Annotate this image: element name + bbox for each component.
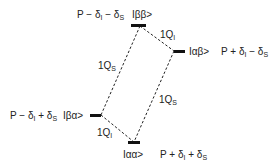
transition-label-1qs-right: 1QS: [159, 94, 177, 106]
energy-label-bb: P − δI − δS: [77, 9, 124, 21]
state-label-bb: Iββ>: [132, 9, 152, 21]
state-label-ba: Iβα>: [63, 110, 83, 122]
level-bar-bb: [131, 24, 146, 27]
level-bar-aa: [128, 141, 140, 144]
energy-label-ba: P − δI + δS: [10, 110, 57, 122]
energy-label-aa: P + δI + δS: [160, 149, 207, 161]
transition-label-1qi-top: 1QI: [160, 29, 175, 41]
energy-level-diagram: P − δI − δS Iββ> Iαβ> P + δI − δS P − δI…: [0, 0, 275, 166]
level-bar-ab: [174, 50, 185, 53]
transition-label-1qs-left: 1QS: [98, 60, 116, 72]
state-label-ab: Iαβ>: [189, 46, 209, 58]
level-bar-ba: [90, 114, 101, 117]
transition-label-1qi-bottom: 1QI: [97, 127, 112, 139]
state-label-aa: Iαα>: [123, 149, 143, 161]
energy-label-ab: P + δI − δS: [221, 46, 268, 58]
